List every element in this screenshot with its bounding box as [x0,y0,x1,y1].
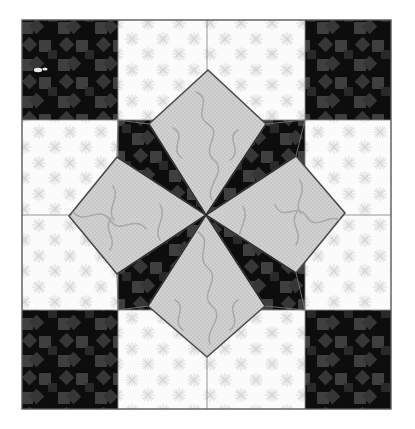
quilt-block [22,20,391,409]
patch-corner-bottom-left [22,310,118,409]
quilt-block-artwork [0,0,415,429]
patch-corner-top-right [305,20,391,120]
patch-corner-bottom-right [305,310,391,409]
image-canvas [0,0,415,429]
